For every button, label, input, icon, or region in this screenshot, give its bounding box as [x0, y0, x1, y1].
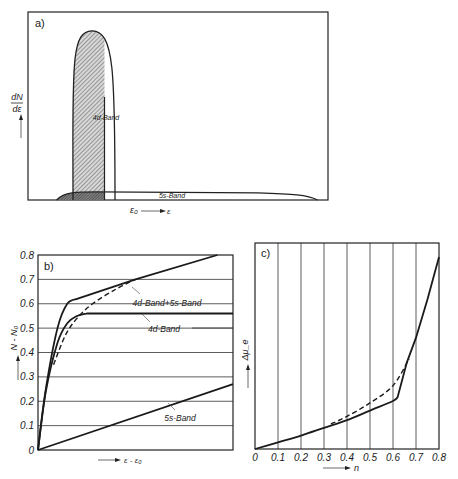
- a-xlabel-arrowhead-icon: [160, 209, 166, 213]
- b-label-leader: [142, 314, 150, 322]
- b-ytick-label: 0.6: [20, 298, 34, 309]
- band-4d-label: 4d-Band: [93, 114, 121, 121]
- c-xtick-label: 0.5: [363, 452, 377, 463]
- b-ylabel: N - N₀: [9, 325, 19, 350]
- panel-a-label: a): [35, 17, 45, 29]
- panel-b: b) 00.10.20.30.40.50.60.70.8 4d-Band+5s-…: [9, 250, 233, 466]
- b-label-leader: [132, 287, 140, 294]
- b-series-4d-band: [38, 314, 233, 451]
- c-xtick-label: 0.2: [294, 452, 308, 463]
- a-ylabel-arrowhead-icon: [19, 114, 23, 120]
- panel-a: a) 4d-Band5s-Band dN dε ε₀ ε: [11, 12, 328, 216]
- c-xtick-label: 0.3: [317, 452, 331, 463]
- c-xtick-label: 0.8: [432, 452, 446, 463]
- b-series-5s-band: [38, 384, 233, 450]
- b-ytick-label: 0.7: [20, 274, 34, 285]
- c-xlabel-arrowhead-icon: [345, 466, 351, 470]
- a-xlabel-origin: ε₀: [130, 205, 138, 215]
- c-xtick-label: 0.7: [409, 452, 423, 463]
- panel-c: c) 00.10.20.30.40.50.60.70.8 Δμ_e n: [240, 243, 446, 473]
- b-ytick-label: 0: [28, 445, 34, 456]
- b-ytick-label: 0.3: [20, 371, 34, 382]
- c-xlabel: n: [354, 463, 359, 473]
- c-xtick-label: 0.6: [386, 452, 400, 463]
- b-ytick-label: 0.4: [20, 347, 34, 358]
- b-series-label: 4d-Band+5s-Band: [133, 298, 202, 308]
- a-ylabel-denominator: dε: [13, 104, 23, 114]
- a-ylabel-numerator: dN: [11, 92, 23, 102]
- a-xlabel: ε: [167, 207, 171, 216]
- b-ytick-label: 0.2: [20, 396, 34, 407]
- c-ylabel-arrowhead-icon: [246, 364, 250, 370]
- c-xtick-label: 0: [252, 452, 258, 463]
- b-ytick-label: 0.1: [20, 420, 34, 431]
- b-series-label: 5s-Band: [164, 413, 196, 423]
- band-5s-label: 5s-Band: [159, 192, 186, 199]
- b-xlabel-arrowhead-icon: [115, 458, 121, 462]
- b-ytick-label: 0.5: [20, 323, 34, 334]
- b-series-label: 4d-Band: [148, 324, 180, 334]
- c-xtick-label: 0.4: [340, 452, 354, 463]
- panel-c-label: c): [261, 247, 270, 259]
- panel-b-label: b): [44, 260, 54, 272]
- b-ytick-label: 0.8: [20, 250, 34, 261]
- c-xtick-label: 0.1: [271, 452, 285, 463]
- figure: a) 4d-Band5s-Band dN dε ε₀ ε b) 00.10.20…: [0, 0, 458, 479]
- c-ylabel: Δμ_e: [240, 340, 250, 362]
- b-xlabel: ε - ε₀: [124, 456, 142, 465]
